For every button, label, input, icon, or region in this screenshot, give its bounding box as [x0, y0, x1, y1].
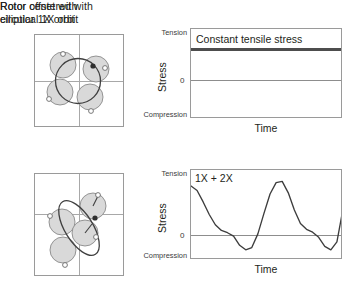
constant-stress-line [191, 48, 341, 51]
axis-tick-zero-bottom: 0 [180, 231, 184, 240]
axis-label-time-top: Time [190, 122, 342, 134]
axis-tick-compression-bottom: Compression [136, 251, 187, 260]
panel-rotor-offset: Rotor offset with elliptical 1X orbit [0, 0, 150, 25]
rotor-position-group [47, 52, 109, 110]
annotation-constant-tensile-stress: Constant tensile stress [196, 33, 302, 45]
zero-line-top [191, 80, 341, 81]
orbit-path-elliptical [35, 174, 125, 277]
orbit-diagram-elliptical [34, 173, 124, 276]
orbit-diagram-circular [34, 34, 124, 127]
axis-label-time-bottom: Time [190, 263, 342, 275]
annotation-1x-plus-2x: 1X + 2X [195, 172, 233, 184]
rotor-center-dot [90, 63, 95, 68]
axis-label-stress-top: Stress [156, 62, 168, 92]
axis-tick-tension-top: Tension [142, 28, 187, 37]
axis-tick-tension-bottom: Tension [142, 169, 187, 178]
chart-1x-plus-2x: Tension 0 Compression Stress 1X + 2X Tim… [142, 155, 342, 283]
rotor-center-dot-2 [92, 215, 97, 220]
orbit-path-circular [35, 35, 125, 128]
axis-tick-zero-top: 0 [180, 76, 184, 85]
axis-label-stress-bottom: Stress [156, 203, 168, 233]
axis-tick-compression-top: Compression [136, 110, 187, 119]
chart-constant-tensile-stress: Tension 0 Compression Stress Constant te… [142, 14, 342, 142]
plot-area-constant-stress: Constant tensile stress [190, 28, 342, 118]
heading-rotor-offset: Rotor offset with elliptical 1X orbit [0, 0, 150, 25]
plot-area-1x-2x: 1X + 2X [190, 169, 342, 259]
